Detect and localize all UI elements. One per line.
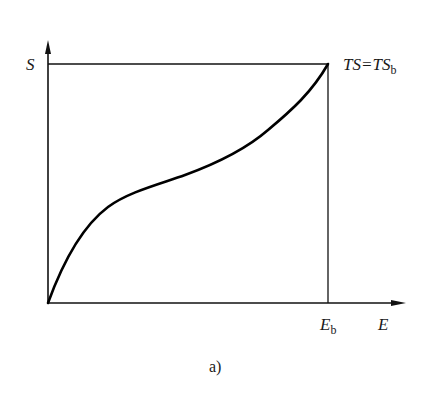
s-curve [48,64,328,303]
x-axis-label: E [377,315,389,334]
eb-tick-label: Eb [319,315,336,337]
endpoint-label: TS=TSb [343,55,396,77]
diagram-canvas: S TS=TSb Eb E a) [0,0,434,397]
y-axis-label: S [26,55,35,74]
y-axis-arrow-icon [45,40,51,54]
figure-caption: a) [209,358,221,376]
x-axis-arrow-icon [391,300,406,306]
